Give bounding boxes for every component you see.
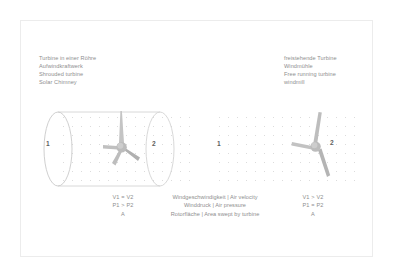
shroud-tube: [44, 112, 174, 186]
station-marker-1-free: 1: [217, 140, 221, 147]
legend-line-area: Rotorfläche | Area swept by turbine: [150, 210, 280, 218]
shrouded-turbine-formula-block: V1 = V2 P1 > P2 A: [98, 193, 148, 218]
shrouded-area-symbol: A: [98, 210, 148, 218]
legend-line-pressure: Winddruck | Air pressure: [150, 201, 280, 209]
free-area-symbol: A: [288, 210, 338, 218]
shrouded-pressure-relation: P1 > P2: [98, 201, 148, 209]
station-marker-2-shrouded: 2: [152, 140, 156, 147]
station-marker-1-shrouded: 1: [46, 140, 50, 147]
free-turbine-formula-block: V1 > V2 P1 = P2 A: [288, 193, 338, 218]
free-turbine-rotor: [291, 112, 330, 177]
station-marker-2-free: 2: [330, 139, 334, 146]
legend-line-velocity: Windgeschwindigkeit | Air velocity: [150, 193, 280, 201]
diagram-vector-layer: [0, 0, 394, 278]
free-velocity-relation: V1 > V2: [288, 193, 338, 201]
shrouded-turbine-rotor: [103, 111, 140, 166]
legend-block: Windgeschwindigkeit | Air velocity Windd…: [150, 193, 280, 218]
shrouded-velocity-relation: V1 = V2: [98, 193, 148, 201]
wind-turbine-comparison-figure: Turbine in einer Röhre Aufwindkraftwerk …: [0, 0, 394, 278]
free-pressure-relation: P1 = P2: [288, 201, 338, 209]
